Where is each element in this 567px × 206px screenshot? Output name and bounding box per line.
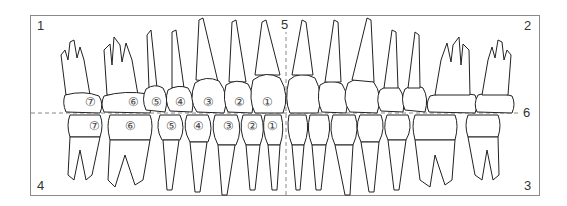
upper-left-7-crown (64, 93, 102, 113)
dental-chart: 1 2 3 4 5 6 ⑦⑥⑤④③②①⑦⑥⑤④③②① (0, 0, 567, 206)
upper-left-5-root (147, 30, 157, 88)
upper-tooth-label: ③ (203, 95, 214, 109)
quadrant-label-2: 2 (524, 18, 531, 33)
lower-tooth-label: ⑥ (125, 119, 136, 133)
midline-label-5: 5 (281, 17, 288, 32)
quadrant-label-1: 1 (37, 18, 44, 33)
lower-tooth-label: ④ (193, 119, 204, 133)
upper-tooth-label: ⑥ (128, 95, 139, 109)
quadrant-label-4: 4 (37, 178, 44, 193)
upper-left-7-root (61, 40, 90, 95)
upper-tooth-label: ⑦ (85, 95, 96, 109)
upper-tooth-label: ① (262, 95, 273, 109)
lower-tooth-label: ⑦ (89, 119, 100, 133)
lower-tooth-label: ③ (223, 119, 234, 133)
quadrant-label-3: 3 (524, 178, 531, 193)
upper-tooth-label: ② (234, 95, 245, 109)
upper-tooth-label: ⑤ (151, 95, 162, 109)
lower-tooth-label: ① (267, 119, 278, 133)
occlusal-label-6: 6 (521, 105, 532, 120)
lower-tooth-label: ⑤ (166, 119, 177, 133)
upper-tooth-label: ④ (175, 95, 186, 109)
upper-left-6-root (104, 37, 138, 95)
lower-tooth-label: ② (247, 119, 258, 133)
